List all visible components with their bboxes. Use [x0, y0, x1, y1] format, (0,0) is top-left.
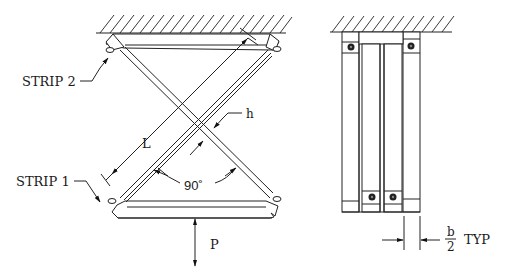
- length-label: L: [142, 136, 151, 151]
- ground-hatch-left: [96, 15, 292, 33]
- side-view: L h 90˚ STRIP 2 STRIP 1: [16, 15, 292, 266]
- strip-2-label: STRIP 2: [22, 74, 76, 89]
- outer-strips: [342, 32, 420, 212]
- strip-1-callout: STRIP 1: [16, 174, 100, 202]
- ground-hatch-right: [330, 16, 454, 32]
- width-numerator: b: [447, 225, 455, 239]
- thickness-label: h: [246, 107, 254, 121]
- cross-strip-flexure-diagram: L h 90˚ STRIP 2 STRIP 1: [0, 0, 507, 278]
- bottom-moving-bar: [108, 197, 281, 219]
- load-label: P: [210, 237, 219, 252]
- front-view: b 2 TYP: [330, 16, 490, 254]
- load-arrow: P: [195, 219, 219, 266]
- width-dimension: b 2 TYP: [382, 216, 490, 254]
- width-suffix: TYP: [464, 232, 490, 247]
- top-block: [359, 32, 403, 44]
- strip-2-callout: STRIP 2: [22, 58, 108, 89]
- angle-label: 90˚: [184, 178, 203, 193]
- inner-strips: [359, 44, 402, 212]
- angle-dimension: 90˚: [154, 168, 236, 193]
- strip-1-label: STRIP 1: [16, 174, 70, 189]
- thickness-dimension: h: [190, 107, 254, 155]
- width-denominator: 2: [447, 240, 455, 254]
